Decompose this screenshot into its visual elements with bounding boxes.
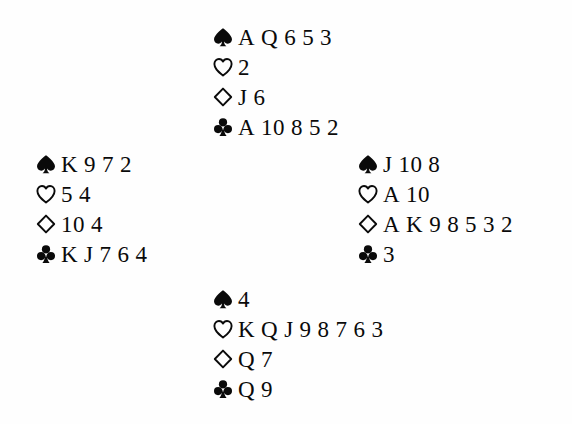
suit-line-hearts: A10 <box>356 179 513 209</box>
hand-east: J108A10AK985323 <box>356 149 513 269</box>
heart-icon <box>211 56 234 78</box>
diamond-icon <box>34 213 57 235</box>
card-rank: A <box>238 25 255 50</box>
card-ranks-clubs: 3 <box>383 242 395 266</box>
card-rank: 2 <box>327 115 339 140</box>
card-rank: J <box>238 85 247 110</box>
spade-icon <box>356 153 379 175</box>
card-rank: 9 <box>300 317 312 342</box>
card-rank: 3 <box>483 212 495 237</box>
card-ranks-diamonds: 104 <box>61 212 103 236</box>
club-icon <box>211 378 234 400</box>
card-rank: Q <box>238 347 255 372</box>
heart-icon <box>211 318 234 340</box>
card-ranks-spades: 4 <box>238 287 250 311</box>
card-rank: A <box>383 212 400 237</box>
club-icon <box>34 243 57 265</box>
card-rank: 3 <box>371 317 383 342</box>
suit-line-hearts: 54 <box>34 179 147 209</box>
suit-line-diamonds: Q7 <box>211 344 383 374</box>
card-rank: 5 <box>302 25 314 50</box>
card-rank: 5 <box>61 182 73 207</box>
card-rank: 5 <box>465 212 477 237</box>
card-ranks-hearts: 2 <box>238 55 250 79</box>
card-rank: 9 <box>84 152 96 177</box>
hand-north: AQ6532J6A10852 <box>211 22 339 142</box>
spade-icon <box>34 153 57 175</box>
card-rank: 6 <box>353 317 365 342</box>
card-rank: K <box>406 212 423 237</box>
card-rank: 5 <box>309 115 321 140</box>
suit-line-clubs: 3 <box>356 239 513 269</box>
card-ranks-clubs: Q9 <box>238 377 273 401</box>
club-icon <box>211 116 234 138</box>
suit-line-spades: J108 <box>356 149 513 179</box>
card-rank: J <box>284 317 293 342</box>
card-rank: 7 <box>261 347 273 372</box>
diamond-icon <box>211 348 234 370</box>
card-ranks-hearts: 54 <box>61 182 91 206</box>
suit-line-diamonds: AK98532 <box>356 209 513 239</box>
card-rank: 10 <box>406 182 430 207</box>
card-rank: 2 <box>238 55 250 80</box>
heart-icon <box>34 183 57 205</box>
bridge-deal-diagram: AQ6532J6A10852 K97254104KJ764 J108A10AK9… <box>0 0 572 424</box>
suit-line-diamonds: 104 <box>34 209 147 239</box>
card-rank: A <box>383 182 400 207</box>
card-rank: Q <box>261 25 278 50</box>
suit-line-clubs: KJ764 <box>34 239 147 269</box>
card-rank: 6 <box>117 242 129 267</box>
card-rank: 4 <box>91 212 103 237</box>
suit-line-spades: 4 <box>211 284 383 314</box>
card-rank: 8 <box>318 317 330 342</box>
card-rank: 8 <box>447 212 459 237</box>
card-rank: K <box>61 152 78 177</box>
card-ranks-spades: J108 <box>383 152 440 176</box>
card-rank: 8 <box>428 152 440 177</box>
card-rank: Q <box>238 377 255 402</box>
card-rank: 10 <box>61 212 85 237</box>
suit-line-hearts: KQJ98763 <box>211 314 383 344</box>
card-ranks-spades: AQ653 <box>238 25 332 49</box>
card-rank: K <box>238 317 255 342</box>
card-rank: 7 <box>100 242 112 267</box>
suit-line-hearts: 2 <box>211 52 339 82</box>
card-ranks-hearts: A10 <box>383 182 430 206</box>
diamond-icon <box>356 213 379 235</box>
card-ranks-spades: K972 <box>61 152 132 176</box>
suit-line-clubs: Q9 <box>211 374 383 404</box>
card-rank: 9 <box>429 212 441 237</box>
card-rank: 4 <box>79 182 91 207</box>
card-rank: 2 <box>120 152 132 177</box>
card-rank: A <box>238 115 255 140</box>
hand-south: 4KQJ98763Q7Q9 <box>211 284 383 404</box>
card-rank: 9 <box>261 377 273 402</box>
suit-line-spades: K972 <box>34 149 147 179</box>
card-rank: 8 <box>291 115 303 140</box>
diamond-icon <box>211 86 234 108</box>
card-rank: 4 <box>135 242 147 267</box>
card-rank: 7 <box>336 317 348 342</box>
card-ranks-diamonds: J6 <box>238 85 265 109</box>
card-ranks-hearts: KQJ98763 <box>238 317 383 341</box>
card-rank: 10 <box>261 115 285 140</box>
suit-line-diamonds: J6 <box>211 82 339 112</box>
heart-icon <box>356 183 379 205</box>
club-icon <box>356 243 379 265</box>
card-rank: 4 <box>238 287 250 312</box>
card-ranks-clubs: A10852 <box>238 115 339 139</box>
spade-icon <box>211 288 234 310</box>
card-rank: K <box>61 242 78 267</box>
card-rank: J <box>84 242 93 267</box>
card-rank: 2 <box>501 212 513 237</box>
card-rank: 6 <box>284 25 296 50</box>
hand-west: K97254104KJ764 <box>34 149 147 269</box>
suit-line-clubs: A10852 <box>211 112 339 142</box>
card-rank: 3 <box>320 25 332 50</box>
card-ranks-diamonds: Q7 <box>238 347 273 371</box>
card-rank: J <box>383 152 392 177</box>
card-rank: 7 <box>102 152 114 177</box>
card-rank: 10 <box>398 152 422 177</box>
suit-line-spades: AQ653 <box>211 22 339 52</box>
spade-icon <box>211 26 234 48</box>
